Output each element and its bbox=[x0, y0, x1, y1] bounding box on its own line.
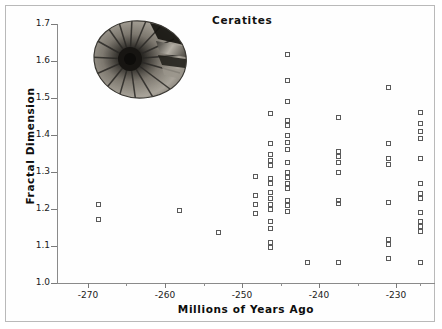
y-axis-tick-label: 1.7 bbox=[8, 18, 50, 28]
data-point-marker bbox=[285, 133, 290, 138]
data-point-marker bbox=[336, 160, 341, 165]
y-axis-title: Fractal Dimension bbox=[24, 56, 36, 236]
data-point-marker bbox=[285, 186, 290, 191]
y-axis-tick bbox=[51, 283, 57, 284]
data-point-marker bbox=[216, 230, 221, 235]
data-point-marker bbox=[386, 141, 391, 146]
data-point-marker bbox=[285, 140, 290, 145]
x-axis-tick bbox=[165, 283, 166, 288]
data-point-marker bbox=[268, 219, 273, 224]
data-point-marker bbox=[253, 174, 258, 179]
y-axis-tick-label: 1.0 bbox=[8, 277, 50, 287]
data-point-marker bbox=[418, 224, 423, 229]
x-axis-tick bbox=[396, 283, 397, 288]
data-point-marker bbox=[268, 158, 273, 163]
data-point-marker bbox=[268, 152, 273, 157]
data-point-marker bbox=[418, 210, 423, 215]
scatter-plot-area bbox=[57, 24, 432, 283]
data-point-marker bbox=[268, 141, 273, 146]
data-point-marker bbox=[268, 202, 273, 207]
x-axis-tick bbox=[319, 283, 320, 288]
data-point-marker bbox=[285, 175, 290, 180]
x-axis-minor-tick bbox=[420, 283, 421, 286]
data-point-marker bbox=[285, 181, 290, 186]
data-point-marker bbox=[386, 242, 391, 247]
x-axis-title: Millions of Years Ago bbox=[57, 303, 435, 315]
data-point-marker bbox=[418, 229, 423, 234]
x-axis-line bbox=[57, 283, 435, 284]
data-point-marker bbox=[386, 162, 391, 167]
data-point-marker bbox=[268, 111, 273, 116]
x-axis-tick-label: -250 bbox=[222, 290, 262, 300]
data-point-marker bbox=[418, 156, 423, 161]
data-point-marker bbox=[268, 226, 273, 231]
data-point-marker bbox=[418, 196, 423, 201]
data-point-marker bbox=[418, 129, 423, 134]
data-point-marker bbox=[418, 260, 423, 265]
data-point-marker bbox=[386, 200, 391, 205]
data-point-marker bbox=[253, 193, 258, 198]
x-axis-minor-tick bbox=[126, 283, 127, 286]
data-point-marker bbox=[285, 52, 290, 57]
data-point-marker bbox=[268, 181, 273, 186]
x-axis-tick bbox=[242, 283, 243, 288]
data-point-marker bbox=[386, 156, 391, 161]
data-point-marker bbox=[268, 163, 273, 168]
x-axis-tick-label: -260 bbox=[145, 290, 185, 300]
data-point-marker bbox=[386, 85, 391, 90]
data-point-marker bbox=[336, 201, 341, 206]
data-point-marker bbox=[285, 147, 290, 152]
x-axis-tick bbox=[88, 283, 89, 288]
data-point-marker bbox=[268, 207, 273, 212]
data-point-marker bbox=[177, 208, 182, 213]
x-axis-tick-label: -270 bbox=[68, 290, 108, 300]
data-point-marker bbox=[253, 202, 258, 207]
y-axis-tick-label: 1.1 bbox=[8, 240, 50, 250]
data-point-marker bbox=[96, 217, 101, 222]
data-point-marker bbox=[418, 121, 423, 126]
data-point-marker bbox=[336, 170, 341, 175]
data-point-marker bbox=[285, 209, 290, 214]
data-point-marker bbox=[336, 260, 341, 265]
data-point-marker bbox=[285, 78, 290, 83]
x-axis-minor-tick bbox=[204, 283, 205, 286]
data-point-marker bbox=[285, 123, 290, 128]
data-point-marker bbox=[418, 181, 423, 186]
data-point-marker bbox=[285, 203, 290, 208]
x-axis-tick-label: -230 bbox=[376, 290, 416, 300]
data-point-marker bbox=[268, 245, 273, 250]
x-axis-tick-label: -240 bbox=[299, 290, 339, 300]
data-point-marker bbox=[268, 190, 273, 195]
data-point-marker bbox=[336, 154, 341, 159]
data-point-marker bbox=[253, 211, 258, 216]
data-point-marker bbox=[285, 198, 290, 203]
data-point-marker bbox=[386, 256, 391, 261]
figure-root: Ceratites bbox=[0, 0, 442, 329]
data-point-marker bbox=[336, 115, 341, 120]
x-axis-minor-tick bbox=[281, 283, 282, 286]
data-point-marker bbox=[418, 110, 423, 115]
data-point-marker bbox=[268, 196, 273, 201]
data-point-marker bbox=[285, 99, 290, 104]
x-axis-minor-tick bbox=[358, 283, 359, 286]
data-point-marker bbox=[268, 176, 273, 181]
data-point-marker bbox=[305, 260, 310, 265]
data-point-marker bbox=[418, 136, 423, 141]
data-point-marker bbox=[285, 160, 290, 165]
data-point-marker bbox=[96, 202, 101, 207]
